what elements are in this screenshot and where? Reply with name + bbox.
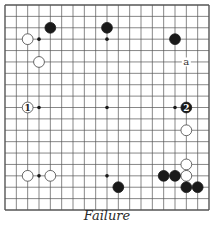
- white-stone: [181, 159, 192, 170]
- move-number: 1: [25, 103, 31, 113]
- diagram-caption: Failure: [0, 208, 214, 223]
- white-stone: [181, 170, 192, 181]
- stone-circle: [113, 182, 124, 193]
- stone-circle: [158, 170, 169, 181]
- stone-circle: [170, 170, 181, 181]
- stone-circle: [45, 170, 56, 181]
- black-stone: [170, 170, 181, 181]
- stone-circle: [181, 125, 192, 136]
- stone-circle: [102, 22, 113, 33]
- move-number: 2: [183, 103, 189, 113]
- stone-circle: [181, 159, 192, 170]
- go-board: a 12: [0, 0, 214, 212]
- stone-circle: [170, 34, 181, 45]
- star-point: [105, 106, 109, 110]
- black-stone: [102, 22, 113, 33]
- star-point: [37, 106, 41, 110]
- black-stone: [45, 22, 56, 33]
- white-stone: [22, 34, 33, 45]
- stone-circle: [192, 182, 203, 193]
- black-stone: [158, 170, 169, 181]
- star-point: [105, 174, 109, 178]
- stone-circle: [22, 34, 33, 45]
- black-stone: [170, 34, 181, 45]
- white-stone: [22, 170, 33, 181]
- stone-circle: [22, 170, 33, 181]
- white-stone: [34, 57, 45, 68]
- black-stone: 2: [181, 102, 192, 113]
- white-stone: 1: [22, 102, 33, 113]
- stone-circle: [34, 57, 45, 68]
- point-label: a: [183, 56, 189, 67]
- black-stone: [181, 182, 192, 193]
- black-stone: [192, 182, 203, 193]
- white-stone: [181, 125, 192, 136]
- star-point: [37, 37, 41, 41]
- point-marks: a: [182, 56, 191, 67]
- star-point: [37, 174, 41, 178]
- white-stone: [45, 170, 56, 181]
- stone-circle: [181, 170, 192, 181]
- stone-circle: [45, 22, 56, 33]
- star-point: [173, 106, 177, 110]
- star-point: [105, 37, 109, 41]
- black-stone: [113, 182, 124, 193]
- stone-circle: [181, 182, 192, 193]
